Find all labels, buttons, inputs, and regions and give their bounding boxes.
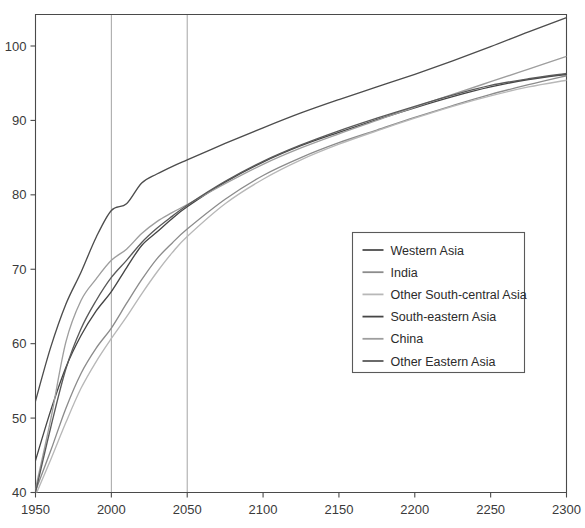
x-tick-label-1950: 1950 <box>21 502 50 517</box>
x-tick-label-2300: 2300 <box>552 502 581 517</box>
gridlines <box>111 15 187 493</box>
y-axis-tick-labels: 405060708090100 <box>5 39 27 501</box>
x-tick-label-2150: 2150 <box>324 502 353 517</box>
legend-label-2: Other South-central Asia <box>391 288 527 302</box>
chart-container: 19502000205021002150220022502300 4050607… <box>0 0 585 528</box>
x-axis-tick-labels: 19502000205021002150220022502300 <box>21 502 581 517</box>
x-tick-label-2200: 2200 <box>400 502 429 517</box>
y-tick-label-100: 100 <box>5 39 27 54</box>
x-tick-label-2050: 2050 <box>173 502 202 517</box>
line-chart: 19502000205021002150220022502300 4050607… <box>0 0 585 528</box>
y-tick-label-80: 80 <box>12 187 26 202</box>
legend-label-0: Western Asia <box>391 244 464 258</box>
y-tick-label-50: 50 <box>12 411 26 426</box>
x-tick-label-2100: 2100 <box>249 502 278 517</box>
y-tick-label-90: 90 <box>12 113 26 128</box>
x-tick-label-2250: 2250 <box>476 502 505 517</box>
legend-label-1: India <box>391 266 418 280</box>
y-tick-label-40: 40 <box>12 485 26 500</box>
legend-label-4: China <box>391 332 424 346</box>
x-tick-label-2000: 2000 <box>97 502 126 517</box>
legend-label-3: South-eastern Asia <box>391 310 497 324</box>
chart-legend: Western AsiaIndiaOther South-central Asi… <box>353 233 527 373</box>
legend-label-5: Other Eastern Asia <box>391 355 496 369</box>
y-tick-label-70: 70 <box>12 262 26 277</box>
y-tick-label-60: 60 <box>12 336 26 351</box>
